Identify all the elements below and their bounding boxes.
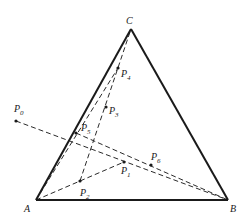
- edge-bc: [131, 29, 228, 200]
- point-marker-p5: [74, 131, 77, 134]
- point-label-p5: P5: [80, 122, 91, 136]
- point-marker-p1: [122, 160, 125, 163]
- vertex-label-b: B: [230, 203, 236, 214]
- vertex-label-c: C: [126, 15, 133, 26]
- point-marker-p4: [116, 66, 119, 69]
- point-label-p2: P2: [79, 187, 90, 201]
- vertex-label-a: A: [23, 203, 31, 214]
- triangle-diagram: P0P1P2P3P4P5P6ABC: [0, 0, 246, 223]
- point-marker-p2: [78, 179, 81, 182]
- point-marker-p0: [14, 119, 17, 122]
- point-label-p1: P1: [120, 165, 131, 179]
- point-label-p6: P6: [150, 151, 161, 165]
- dashed-line-p0-b: [16, 121, 228, 200]
- point-marker-p6: [149, 163, 152, 166]
- dashed-line-p5-b: [76, 133, 228, 200]
- point-label-p4: P4: [120, 68, 131, 82]
- point-label-p0: P0: [13, 103, 24, 117]
- point-label-p3: P3: [108, 105, 119, 119]
- point-marker-p3: [104, 105, 107, 108]
